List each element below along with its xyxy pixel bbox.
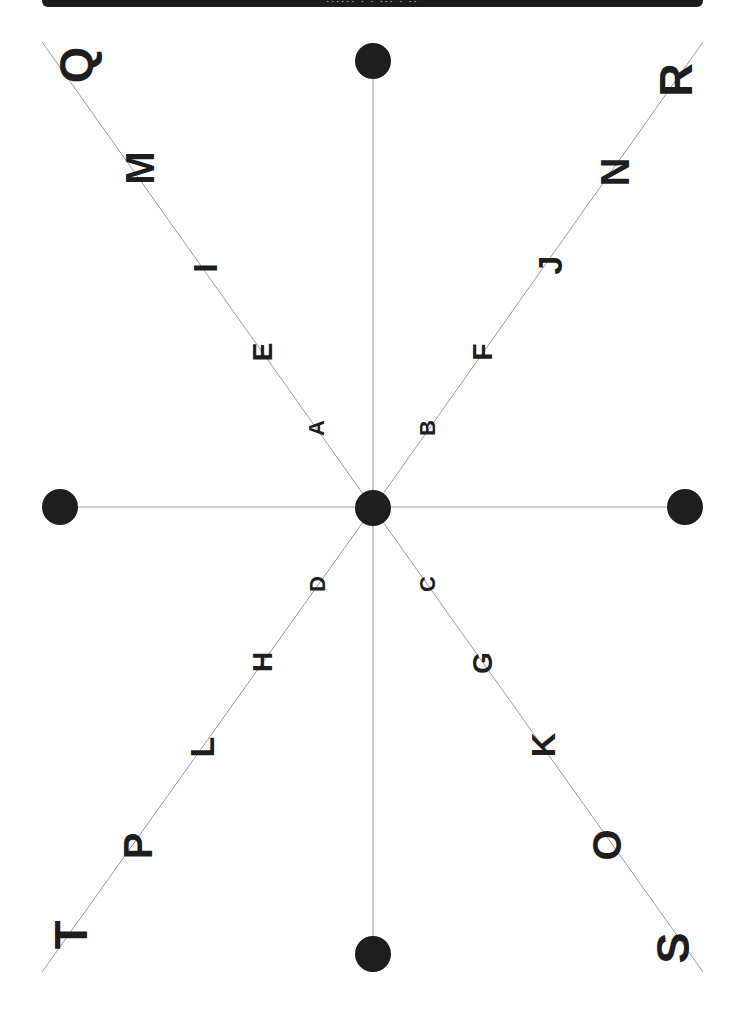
letter-a: A [306,420,328,436]
letter-i: I [188,263,222,272]
line-diag-upper-left [42,42,373,508]
letter-s: S [649,932,696,963]
letter-o: O [587,829,627,860]
letter-k: K [526,733,560,758]
dot-center [355,490,391,526]
dot-bottom [355,936,391,972]
letter-p: P [118,833,158,860]
letter-b: B [417,420,439,436]
letter-g: G [469,652,497,674]
letter-m: M [120,151,160,184]
dot-left [42,489,78,525]
letter-h: H [249,652,277,672]
line-diag-upper-right [373,42,703,508]
letter-j: J [533,256,567,275]
letter-d: D [307,576,329,592]
letter-n: N [595,158,635,187]
letter-c: C [417,576,439,592]
radial-letter-chart [0,0,740,1018]
letter-r: R [652,63,699,97]
dot-right [667,489,703,525]
letter-l: L [185,737,219,758]
letter-t: T [47,921,94,950]
letter-f: F [469,343,497,360]
letter-e: E [249,343,277,362]
letter-q: Q [52,47,99,84]
dot-top [355,43,391,79]
